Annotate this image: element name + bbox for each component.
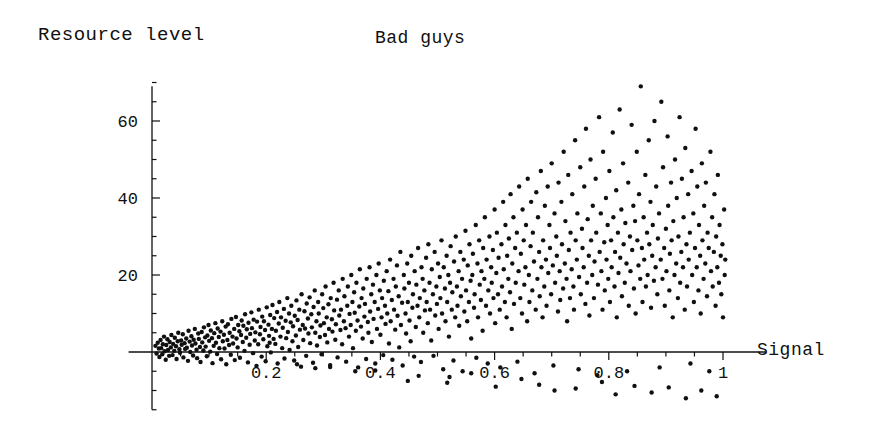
data-point [560, 242, 564, 246]
data-point [203, 344, 207, 348]
data-point [407, 281, 411, 285]
data-point [685, 284, 689, 288]
data-point [403, 311, 407, 315]
data-point [438, 296, 442, 300]
data-point [440, 311, 444, 315]
data-point [434, 284, 438, 288]
data-point [719, 292, 723, 296]
data-point [328, 365, 332, 369]
data-point [563, 261, 567, 265]
data-point [415, 304, 419, 308]
data-point [688, 230, 692, 234]
data-point [270, 303, 274, 307]
data-point [358, 267, 362, 271]
data-point [229, 352, 233, 356]
data-point [313, 288, 317, 292]
data-point [570, 192, 574, 196]
data-point [659, 257, 663, 261]
data-point [674, 261, 678, 265]
data-point [258, 332, 262, 336]
data-point [645, 230, 649, 234]
data-point [385, 311, 389, 315]
data-point [647, 138, 651, 142]
data-point [573, 386, 577, 390]
data-point [409, 254, 413, 258]
data-point [628, 269, 632, 273]
data-point [234, 315, 238, 319]
data-point [644, 284, 648, 288]
data-point [390, 358, 394, 362]
data-point [585, 217, 589, 221]
data-point [550, 161, 554, 165]
data-point [594, 230, 598, 234]
data-point [443, 319, 447, 323]
data-point [275, 361, 279, 365]
data-point [205, 354, 209, 358]
data-point [514, 281, 518, 285]
data-point [268, 313, 272, 317]
data-point [383, 322, 387, 326]
data-point [382, 279, 386, 283]
data-point [475, 261, 479, 265]
data-point [428, 307, 432, 311]
data-point [373, 368, 377, 372]
data-point [298, 327, 302, 331]
data-point [303, 326, 307, 330]
data-point [271, 337, 275, 341]
data-point [294, 333, 298, 337]
data-point [227, 331, 231, 335]
data-point [684, 242, 688, 246]
data-point [589, 238, 593, 242]
data-point [690, 273, 694, 277]
data-point [351, 346, 355, 350]
data-point [511, 215, 515, 219]
data-point [369, 292, 373, 296]
data-point [603, 288, 607, 292]
data-point [614, 188, 618, 192]
data-point [249, 310, 253, 314]
data-point [209, 328, 213, 332]
data-point [332, 308, 336, 312]
data-point [392, 307, 396, 311]
data-point [477, 238, 481, 242]
data-point [361, 286, 365, 290]
data-point [391, 277, 395, 281]
data-point [241, 340, 245, 344]
data-point [633, 219, 637, 223]
data-point [245, 327, 249, 331]
data-point [530, 288, 534, 292]
data-point [541, 238, 545, 242]
data-point [353, 369, 357, 373]
data-point [600, 307, 604, 311]
data-point [373, 361, 377, 365]
data-point [265, 305, 269, 309]
data-point [220, 319, 224, 323]
data-point [470, 273, 474, 277]
data-point [669, 180, 673, 184]
data-point [244, 336, 248, 340]
data-point [169, 333, 173, 337]
data-point [246, 321, 250, 325]
data-point [286, 330, 290, 334]
data-point [652, 279, 656, 283]
data-point [323, 284, 327, 288]
data-point [633, 311, 637, 315]
data-point [355, 318, 359, 322]
data-point [197, 337, 201, 341]
data-point [472, 306, 476, 310]
data-point [555, 254, 559, 258]
data-point [558, 298, 562, 302]
data-point [498, 307, 502, 311]
data-point [499, 242, 503, 246]
data-point [700, 161, 704, 165]
data-point [516, 269, 520, 273]
data-point [705, 230, 709, 234]
data-point [662, 246, 666, 250]
data-point [364, 357, 368, 361]
data-point [587, 254, 591, 258]
data-point [422, 288, 426, 292]
data-point [636, 263, 640, 267]
data-point [599, 211, 603, 215]
data-point [388, 257, 392, 261]
data-point [289, 320, 293, 324]
